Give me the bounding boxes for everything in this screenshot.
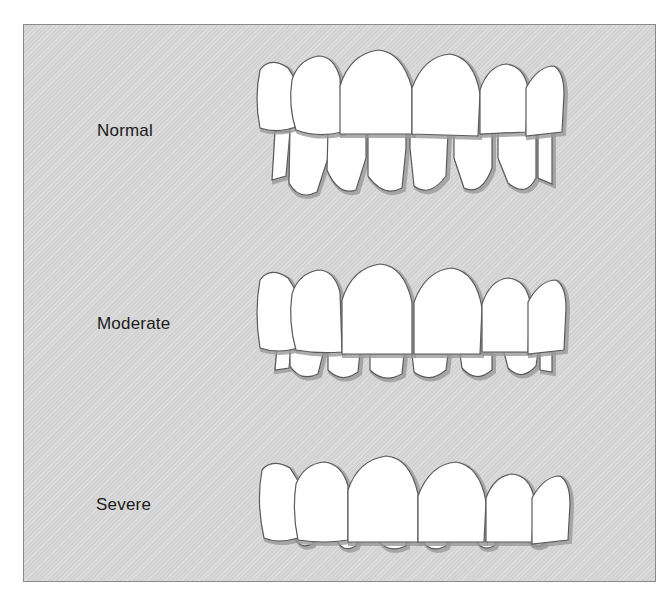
teeth-row-normal (257, 50, 566, 197)
teeth-illustration (0, 0, 671, 593)
upper-teeth-moderate (257, 264, 568, 356)
teeth-row-moderate (257, 264, 568, 380)
teeth-row-severe (259, 456, 572, 551)
upper-teeth-severe (259, 456, 572, 546)
lower-teeth-normal (272, 128, 554, 197)
upper-teeth-normal (257, 50, 566, 138)
